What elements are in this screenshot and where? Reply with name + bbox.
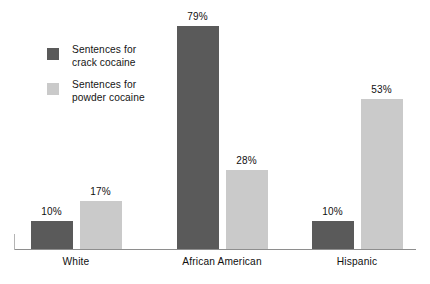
bar-fill: [31, 221, 73, 249]
plot-area: 10%17%White79%28%African American10%53%H…: [0, 0, 430, 250]
bar[interactable]: 53%: [361, 99, 403, 249]
bar-fill: [361, 99, 403, 249]
bar-fill: [312, 221, 354, 249]
bar-group: 10%53%Hispanic: [312, 0, 403, 284]
bar[interactable]: 79%: [177, 26, 219, 249]
category-label: Hispanic: [337, 256, 377, 267]
bar-group: 79%28%African American: [177, 0, 268, 284]
bar-value-label: 10%: [41, 206, 61, 217]
bar-value-label: 53%: [371, 84, 391, 95]
bar-fill: [177, 26, 219, 249]
bar-value-label: 28%: [236, 155, 256, 166]
bar[interactable]: 10%: [312, 221, 354, 249]
bar[interactable]: 17%: [80, 201, 122, 249]
bar[interactable]: 10%: [31, 221, 73, 249]
y-axis-stub: [14, 234, 15, 250]
bar-value-label: 17%: [90, 186, 110, 197]
bar-group: 10%17%White: [31, 0, 122, 284]
bar[interactable]: 28%: [226, 170, 268, 249]
bar-value-label: 10%: [322, 206, 342, 217]
category-label: African American: [182, 256, 261, 267]
bar-value-label: 79%: [187, 11, 207, 22]
bar-fill: [80, 201, 122, 249]
bar-chart: Sentences for crack cocaine Sentences fo…: [0, 0, 430, 284]
category-label: White: [63, 256, 90, 267]
bar-fill: [226, 170, 268, 249]
